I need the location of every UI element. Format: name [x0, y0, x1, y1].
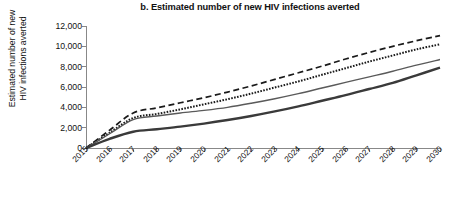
- x-tick-label: 2020: [188, 144, 208, 164]
- x-axis-tick-labels: 2015201620172018201920202021202220232024…: [0, 0, 454, 198]
- x-tick-label: 2023: [259, 144, 279, 164]
- x-tick-label: 2026: [330, 144, 350, 164]
- x-tick-label: 2015: [70, 144, 90, 164]
- x-tick-label: 2024: [282, 144, 302, 164]
- chart-figure: b. Estimated number of new HIV infection…: [0, 0, 454, 198]
- x-tick-label: 2025: [306, 144, 326, 164]
- x-tick-label: 2029: [400, 144, 420, 164]
- x-tick-label: 2017: [117, 144, 137, 164]
- x-tick-label: 2018: [141, 144, 161, 164]
- x-tick-label: 2019: [164, 144, 184, 164]
- x-tick-label: 2028: [377, 144, 397, 164]
- x-tick-label: 2027: [353, 144, 373, 164]
- x-tick-label: 2022: [235, 144, 255, 164]
- x-tick-label: 2016: [94, 144, 114, 164]
- x-tick-label: 2030: [424, 144, 444, 164]
- x-tick-label: 2021: [212, 144, 232, 164]
